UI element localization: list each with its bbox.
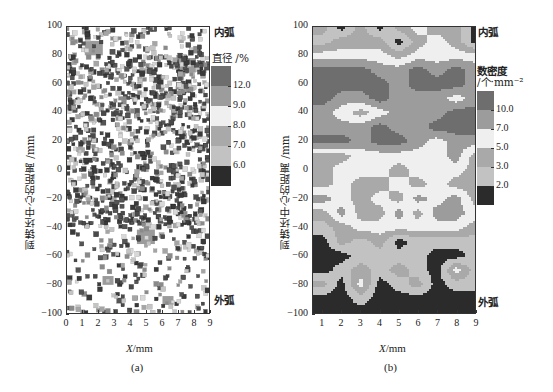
inclusion-marker <box>206 216 210 221</box>
inclusion-marker <box>197 307 201 311</box>
inclusion-marker <box>180 292 184 296</box>
ytick-label: −40 <box>32 221 62 232</box>
inclusion-marker <box>176 246 180 250</box>
inclusion-marker <box>87 201 90 204</box>
chart-b-plot-area <box>312 26 476 314</box>
inclusion-marker <box>78 177 82 181</box>
inclusion-marker <box>110 153 114 157</box>
inclusion-marker <box>143 205 148 210</box>
inclusion-marker <box>96 36 100 40</box>
inclusion-marker <box>169 304 173 308</box>
colorbar-band <box>211 106 231 126</box>
inclusion-marker <box>127 96 130 99</box>
inclusion-marker <box>155 121 158 124</box>
inclusion-marker <box>127 91 130 94</box>
inclusion-marker <box>114 192 119 197</box>
inclusion-marker <box>119 117 123 121</box>
inclusion-marker <box>144 112 147 115</box>
chart-b-xlabel: X/mm <box>379 342 406 354</box>
chart-a-xlabel-unit: /mm <box>133 342 153 354</box>
inclusion-marker <box>148 208 151 211</box>
inclusion-marker <box>147 118 150 121</box>
inclusion-marker <box>116 90 121 95</box>
inclusion-marker <box>186 220 190 224</box>
inclusion-marker <box>101 111 106 116</box>
inclusion-marker <box>118 37 121 40</box>
inclusion-marker <box>165 192 170 197</box>
inclusion-marker <box>127 157 132 162</box>
inclusion-marker <box>80 81 83 84</box>
xtick-mark <box>82 310 83 313</box>
inclusion-marker <box>98 184 101 187</box>
inclusion-marker <box>70 40 75 45</box>
inclusion-marker <box>115 252 119 256</box>
inclusion-marker <box>76 72 80 76</box>
xtick-mark <box>418 310 419 313</box>
inclusion-marker <box>91 128 96 132</box>
inclusion-marker <box>130 138 134 142</box>
inclusion-marker <box>177 146 181 150</box>
inclusion-marker <box>198 83 201 86</box>
inclusion-marker <box>163 215 166 218</box>
inclusion-marker <box>160 179 163 182</box>
inclusion-marker <box>122 278 126 282</box>
inclusion-marker <box>117 161 121 165</box>
inclusion-marker <box>117 264 121 268</box>
inclusion-marker <box>146 99 150 103</box>
xtick-label: 8 <box>188 317 200 328</box>
chart-b-xlabel-var: X <box>379 342 386 354</box>
inclusion-marker <box>165 75 169 79</box>
inclusion-marker <box>187 235 191 239</box>
inclusion-marker <box>160 218 163 221</box>
inclusion-marker <box>155 208 158 211</box>
inclusion-marker <box>206 173 209 176</box>
inclusion-marker <box>159 293 162 296</box>
inclusion-marker <box>132 183 136 187</box>
inclusion-marker <box>140 67 144 71</box>
inclusion-marker <box>124 52 129 57</box>
inclusion-marker <box>206 159 209 163</box>
inclusion-marker <box>104 222 108 226</box>
colorbar-band <box>211 66 231 86</box>
inclusion-marker <box>106 189 110 193</box>
inclusion-marker <box>75 193 80 198</box>
inclusion-marker <box>191 117 195 121</box>
inclusion-marker <box>161 145 166 150</box>
inclusion-marker <box>175 199 179 203</box>
inclusion-marker <box>188 204 192 208</box>
inclusion-marker <box>130 132 134 136</box>
inclusion-marker <box>118 143 121 146</box>
inclusion-marker <box>114 185 118 189</box>
inclusion-marker <box>72 105 76 109</box>
inclusion-marker <box>177 284 180 287</box>
inclusion-marker <box>181 90 185 94</box>
inclusion-marker <box>193 256 197 260</box>
inclusion-marker <box>158 261 162 265</box>
inclusion-marker <box>110 227 115 232</box>
inclusion-marker <box>143 268 147 272</box>
inclusion-marker <box>167 56 172 61</box>
inclusion-marker <box>173 77 177 81</box>
inclusion-marker <box>202 102 206 106</box>
inclusion-marker <box>87 141 91 145</box>
inclusion-marker <box>114 215 118 219</box>
xtick-label: 8 <box>451 317 463 328</box>
inclusion-marker <box>84 193 87 196</box>
inclusion-marker <box>142 104 146 108</box>
inclusion-marker <box>190 33 194 37</box>
inclusion-marker <box>165 301 168 304</box>
inclusion-marker <box>199 213 203 217</box>
inclusion-marker <box>126 243 130 247</box>
contour-fill <box>313 27 475 313</box>
inclusion-marker <box>133 98 137 102</box>
inclusion-marker <box>186 43 191 48</box>
chart-b-outer-arc-label: 外弧 <box>478 294 498 309</box>
inclusion-marker <box>79 160 82 163</box>
inclusion-marker <box>157 165 160 168</box>
inclusion-marker <box>69 137 74 142</box>
colorbar-band <box>477 186 494 205</box>
inclusion-marker <box>107 269 112 274</box>
inclusion-marker <box>182 56 187 61</box>
inclusion-marker <box>198 112 202 116</box>
inclusion-marker <box>72 182 76 186</box>
